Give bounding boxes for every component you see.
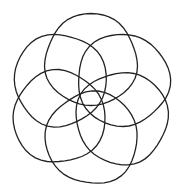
circle-6 — [14, 34, 106, 127]
circles-group — [13, 14, 171, 184]
circle-4 — [45, 91, 137, 183]
circle-rosette-drawing — [0, 0, 181, 195]
circle-3 — [76, 73, 168, 165]
circle-2 — [79, 35, 171, 127]
